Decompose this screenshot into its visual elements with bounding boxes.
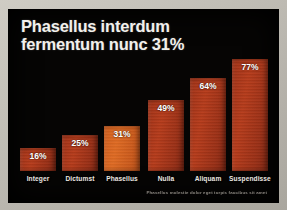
bar-suspendisse[interactable]: 77% [232,59,268,171]
category-label-integer: Integer [14,175,62,182]
footnote-text: Phasellus molestie dolor eget turpis fau… [146,190,267,195]
bar-value-nulla: 49% [148,103,184,113]
bar-nulla[interactable]: 49% [148,100,184,171]
category-label-nulla: Nulla [142,175,190,182]
bar-value-aliquam: 64% [190,81,226,91]
bar-dictumst[interactable]: 25% [62,135,98,171]
bar-group-aliquam[interactable]: 64% Aliquam [190,78,226,171]
bar-group-nulla[interactable]: 49% Nulla [148,100,184,171]
bar-value-integer: 16% [20,151,56,161]
title-line-1: Phasellus interdum [21,18,251,36]
bar-value-dictumst: 25% [62,138,98,148]
bar-group-suspendisse[interactable]: 77% Suspendisse [232,59,268,171]
category-label-suspendisse: Suspendisse [226,175,274,182]
chart-canvas: Phasellus interdum fermentum nunc 31% 16… [8,9,279,203]
slide-frame: Phasellus interdum fermentum nunc 31% 16… [0,0,287,210]
category-label-dictumst: Dictumst [56,175,104,182]
bar-phasellus[interactable]: 31% [104,126,140,171]
bar-value-suspendisse: 77% [232,62,268,72]
bar-chart-plot-area: 16% Integer 25% Dictumst 31% Phasellus 4… [16,43,271,171]
bar-value-phasellus: 31% [104,129,140,139]
category-label-aliquam: Aliquam [184,175,232,182]
category-label-phasellus: Phasellus [98,175,146,182]
bar-group-integer[interactable]: 16% Integer [20,148,56,171]
bar-integer[interactable]: 16% [20,148,56,171]
bar-group-dictumst[interactable]: 25% Dictumst [62,135,98,171]
bar-group-phasellus[interactable]: 31% Phasellus [104,126,140,171]
bar-aliquam[interactable]: 64% [190,78,226,171]
